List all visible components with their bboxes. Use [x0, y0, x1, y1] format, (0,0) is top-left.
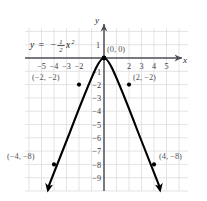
label-4-neg8: (4, −8): [159, 152, 182, 161]
point-2--2: [127, 83, 131, 87]
x-tick--4: −4: [50, 62, 59, 71]
point--4--8: [52, 162, 56, 166]
y-tick--5: −5: [92, 121, 101, 130]
label-neg4-neg8: (−4, −8): [7, 152, 35, 161]
y-tick--2: −2: [92, 81, 101, 90]
label-origin: (0, 0): [107, 45, 125, 54]
equation-variable: x: [65, 40, 71, 50]
x-tick--3: −3: [62, 62, 71, 71]
equation-exponent: 2: [72, 39, 75, 45]
x-tick-3: 3: [139, 62, 143, 71]
y-tick--9: −9: [92, 174, 101, 183]
x-tick--2: −2: [75, 62, 84, 71]
point-0-0: [102, 56, 107, 61]
x-tick-4: 4: [152, 62, 156, 71]
equation-equals: =: [38, 40, 44, 50]
x-axis-label: x: [182, 55, 187, 65]
y-tick--8: −8: [92, 161, 101, 170]
equation-numerator: 1: [59, 38, 62, 45]
label-neg2-neg2: (−2, −2): [32, 73, 60, 82]
parabola-graph-svg: x y −5 −4 −3 −2 2 3 4 5 1 −1 −2 −3 −4 −5…: [0, 0, 207, 201]
x-tick-2: 2: [127, 62, 131, 71]
y-tick--7: −7: [92, 147, 101, 156]
equation-minus: −: [50, 40, 56, 50]
y-tick--6: −6: [92, 134, 101, 143]
graph-figure: x y −5 −4 −3 −2 2 3 4 5 1 −1 −2 −3 −4 −5…: [0, 0, 207, 201]
y-tick--4: −4: [92, 107, 101, 116]
label-2-neg2: (2, −2): [133, 73, 156, 82]
equation-lhs: y: [29, 40, 35, 50]
x-tick--5: −5: [37, 62, 46, 71]
y-tick-1: 1: [96, 41, 100, 50]
point-4--8: [152, 162, 156, 166]
y-axis-label: y: [94, 15, 99, 25]
x-tick-5: 5: [164, 62, 168, 71]
point--2--2: [77, 83, 81, 87]
y-tick--3: −3: [92, 94, 101, 103]
